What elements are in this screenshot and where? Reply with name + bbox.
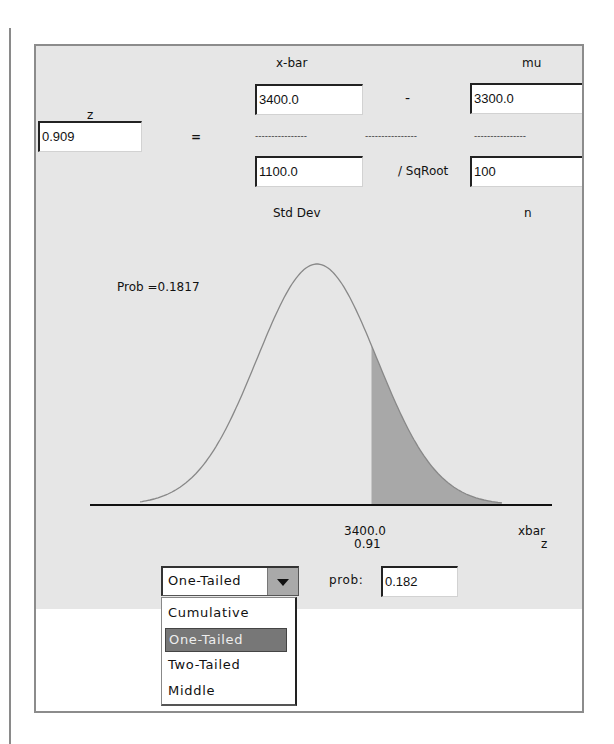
- z-axis-label: z: [541, 537, 547, 551]
- normal-curve-plot: [36, 46, 582, 609]
- tail-type-dropdown-list: Cumulative One-Tailed Two-Tailed Middle: [161, 597, 297, 706]
- left-border-line: [9, 28, 11, 744]
- prob-label: prob:: [329, 573, 363, 587]
- normal-curve: [140, 264, 502, 503]
- z-tick-value: 0.91: [354, 537, 381, 551]
- z-test-panel: x-bar mu z 3400.0 - 3300.0 0.909 = -----…: [34, 44, 584, 713]
- xbar-tick-value: 3400.0: [344, 524, 386, 538]
- chevron-down-icon[interactable]: [267, 568, 298, 595]
- prob-input[interactable]: 0.182: [381, 566, 458, 597]
- shaded-tail-region: [372, 346, 503, 505]
- tail-type-value: One-Tailed: [168, 573, 241, 588]
- option-middle[interactable]: Middle: [165, 680, 218, 702]
- xbar-axis-label: xbar: [518, 524, 545, 538]
- option-cumulative[interactable]: Cumulative: [165, 602, 252, 624]
- option-two-tailed[interactable]: Two-Tailed: [165, 654, 243, 676]
- tail-type-select[interactable]: One-Tailed: [161, 566, 299, 596]
- probability-text: Prob =0.1817: [117, 280, 200, 294]
- option-one-tailed[interactable]: One-Tailed: [165, 628, 287, 652]
